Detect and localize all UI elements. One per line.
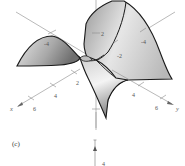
y-axis-label: y [175, 105, 179, 112]
x-axis-arrow-icon [17, 102, 23, 107]
next-panel-z-axis [94, 140, 97, 166]
x-tick-4: 4 [54, 93, 57, 99]
panel-label: (c) [12, 140, 20, 148]
y-tick-4: 4 [132, 92, 135, 98]
z-tick-2: 2 [101, 31, 104, 37]
neg-y-tick-2: -2 [117, 53, 122, 59]
saddle-surface-figure: 2 4 6 4 6 2 -4 -4 -2 x y 4 [0, 0, 185, 166]
x-axis-label: x [9, 105, 13, 112]
neg-x-tick: -4 [44, 41, 49, 47]
y-axis-arrow-icon [167, 101, 174, 105]
neg-y-tick-4: -4 [141, 39, 146, 45]
next-panel-tick: 4 [102, 161, 105, 166]
x-tick-6: 6 [33, 106, 36, 112]
y-tick-6: 6 [155, 105, 158, 111]
next-panel-arrow-icon [93, 146, 97, 151]
x-tick-2: 2 [76, 80, 79, 86]
